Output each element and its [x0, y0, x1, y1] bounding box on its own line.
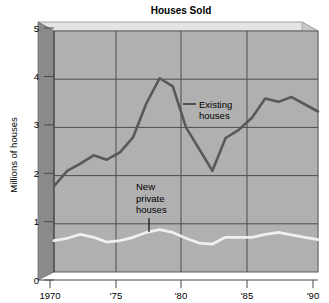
annotation-existing-houses-line-0: Existing: [199, 99, 232, 110]
y-tick-label-2: 2: [34, 168, 39, 179]
y-axis-title: Millions of houses: [8, 117, 19, 193]
x-tick-label-90: '90: [307, 290, 319, 301]
x-tick-label-75: '75: [110, 290, 122, 301]
y-tick-label-0: 0: [34, 275, 39, 286]
chart-container: Houses Sold: [0, 0, 329, 303]
annotation-new-private-houses-line-1: private: [136, 193, 165, 204]
box-top-face: [38, 22, 318, 31]
x-tick-label-80: '80: [175, 290, 187, 301]
plot-area-background: [54, 31, 318, 272]
y-tick-label-1: 1: [34, 216, 39, 227]
x-axis-ticks: [50, 280, 313, 288]
box-left-face: [38, 22, 54, 280]
y-tick-label-4: 4: [34, 71, 39, 82]
y-tick-label-3: 3: [34, 119, 39, 130]
annotation-new-private-houses-line-0: New: [136, 181, 155, 192]
annotation-existing-houses-line-1: houses: [199, 110, 230, 121]
y-tick-label-5: 5: [34, 23, 39, 34]
houses-sold-line-chart: Houses Sold: [0, 0, 329, 303]
annotation-new-private-houses-line-2: houses: [136, 204, 167, 215]
x-tick-label-85: '85: [241, 290, 253, 301]
x-tick-label-1970: 1970: [39, 290, 60, 301]
chart-title: Houses Sold: [151, 5, 212, 16]
